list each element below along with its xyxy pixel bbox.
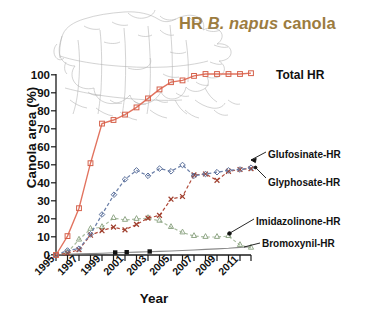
chart-figure: HR B. napus canola Canola area (%) Year …	[0, 0, 371, 316]
series-imidazolinone-hr	[53, 215, 253, 257]
x-axis-ticks	[56, 255, 251, 261]
leader-imidazolinone	[230, 219, 254, 233]
series-total-hr	[54, 71, 254, 258]
series-bromoxynil-hr	[56, 247, 251, 255]
leader-glufosinate	[251, 152, 266, 160]
annotation-leaders	[228, 152, 266, 247]
plot-canvas	[0, 0, 371, 316]
series-glufosinate-hr	[53, 162, 254, 258]
axes	[56, 74, 251, 255]
canada-map-watermark	[54, 10, 240, 120]
leader-glyphosate	[256, 168, 266, 178]
y-axis-ticks	[51, 75, 56, 255]
